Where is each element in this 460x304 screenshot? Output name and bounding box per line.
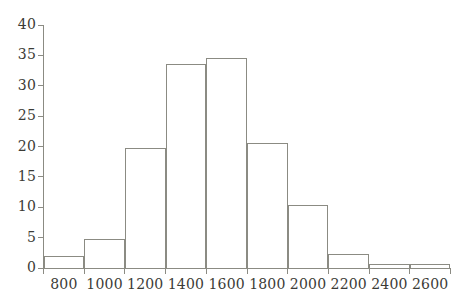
y-tick-label: 5: [0, 230, 36, 244]
y-axis-line: [43, 25, 44, 269]
y-tick-mark: [38, 85, 44, 86]
histogram-bar: [206, 58, 247, 268]
x-tick-mark: [287, 268, 288, 274]
y-tick-mark: [38, 55, 44, 56]
x-tick-mark: [247, 268, 248, 274]
y-tick-label: 30: [0, 78, 36, 92]
histogram-bar: [247, 143, 288, 268]
x-tick-mark: [84, 268, 85, 274]
x-tick-mark: [328, 268, 329, 274]
x-tick-mark: [165, 268, 166, 274]
y-tick-label: 40: [0, 17, 36, 31]
x-tick-label: 2600: [400, 276, 460, 292]
y-tick-mark: [38, 176, 44, 177]
y-tick-label: 10: [0, 199, 36, 213]
histogram-bar: [84, 239, 125, 268]
y-tick-label-text: 35: [2, 47, 36, 61]
y-tick-label-text: 40: [2, 17, 36, 31]
histogram-bar: [410, 264, 451, 268]
y-tick-label-text: 20: [2, 139, 36, 153]
y-tick-label-text: 25: [2, 108, 36, 122]
y-tick-label-text: 0: [2, 260, 36, 274]
histogram-bar: [44, 256, 85, 268]
y-tick-label-text: 10: [2, 199, 36, 213]
x-tick-mark: [206, 268, 207, 274]
x-tick-mark: [124, 268, 125, 274]
histogram-bar: [125, 148, 166, 268]
histogram-chart: 0510152025303540 80010001200140016001800…: [0, 0, 460, 304]
y-tick-label: 15: [0, 169, 36, 183]
histogram-bar: [288, 205, 329, 268]
x-tick-mark: [409, 268, 410, 274]
y-tick-label-text: 5: [2, 230, 36, 244]
y-tick-mark: [38, 237, 44, 238]
y-tick-label: 25: [0, 108, 36, 122]
histogram-bar: [369, 264, 410, 268]
y-tick-label-text: 15: [2, 169, 36, 183]
y-tick-mark: [38, 116, 44, 117]
y-tick-mark: [38, 207, 44, 208]
y-tick-label: 0: [0, 260, 36, 274]
histogram-bar: [328, 254, 369, 268]
y-tick-label: 20: [0, 139, 36, 153]
histogram-bar: [166, 64, 207, 268]
x-tick-mark: [369, 268, 370, 274]
x-tick-mark: [43, 268, 44, 274]
y-tick-label: 35: [0, 47, 36, 61]
y-tick-mark: [38, 25, 44, 26]
y-tick-label-text: 30: [2, 78, 36, 92]
x-tick-mark: [450, 268, 451, 274]
y-tick-mark: [38, 146, 44, 147]
